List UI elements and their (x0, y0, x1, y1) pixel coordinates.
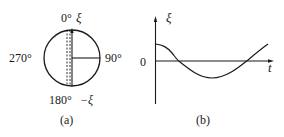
panel-b: ξ t 0 (b) (140, 10, 274, 127)
figure: 0° ξ 90° 270° 180° −ξ (a) ξ t 0 (b) (0, 0, 284, 137)
label-180deg: 180° (49, 93, 72, 107)
panel-a: 0° ξ 90° 270° 180° −ξ (a) (9, 10, 122, 127)
origin-label: 0 (140, 55, 146, 69)
caption-a: (a) (60, 113, 73, 127)
caption-b: (b) (196, 113, 210, 127)
label-minus-xi: −ξ (80, 93, 94, 107)
y-axis-label: ξ (166, 10, 172, 25)
label-xi-top: ξ (76, 10, 82, 25)
label-0deg: 0° (61, 11, 72, 25)
y-axis-arrow-icon (154, 16, 157, 22)
label-90deg: 90° (105, 51, 122, 65)
label-270deg: 270° (9, 51, 32, 65)
x-axis-label: t (268, 60, 272, 75)
